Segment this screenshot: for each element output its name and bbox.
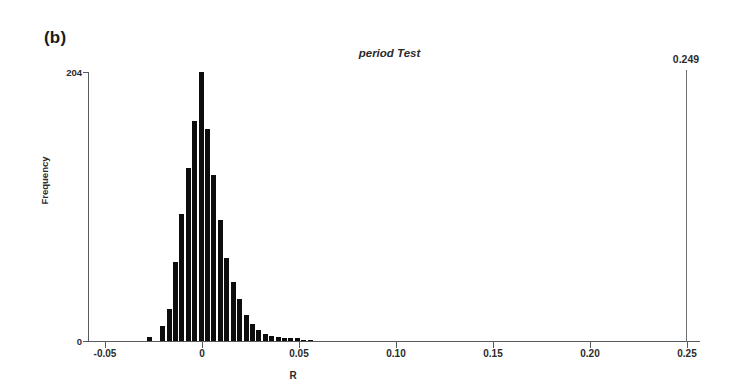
histogram-bar xyxy=(167,309,172,341)
x-tick-label: 0.20 xyxy=(580,348,599,359)
histogram-bar xyxy=(231,282,236,341)
histogram-bar xyxy=(192,121,197,341)
x-tick-label: 0.10 xyxy=(386,348,405,359)
histogram-bar xyxy=(218,220,223,341)
histogram-bar xyxy=(205,129,210,341)
figure-canvas: (b) period Test 0.249 Frequency R 0204-0… xyxy=(0,0,739,392)
histogram-bar xyxy=(276,337,281,341)
histogram-bar xyxy=(269,336,274,341)
histogram-bar xyxy=(179,214,184,341)
y-tick-label: 0 xyxy=(44,336,82,347)
histogram-bar xyxy=(301,340,306,341)
histogram-bar xyxy=(173,262,178,341)
histogram-bar xyxy=(211,175,216,341)
observed-value-line xyxy=(686,70,687,342)
histogram-bar xyxy=(199,72,204,341)
histogram-bar xyxy=(288,338,293,341)
y-axis-label: Frequency xyxy=(39,121,50,241)
histogram-bar xyxy=(308,340,313,341)
x-tick-label: 0.15 xyxy=(483,348,502,359)
histogram-bar xyxy=(295,338,300,341)
x-tick-label: 0.25 xyxy=(677,348,696,359)
histogram-bar xyxy=(250,324,255,341)
x-axis-line xyxy=(88,341,700,342)
y-tick-label: 204 xyxy=(44,67,82,78)
panel-label: (b) xyxy=(44,28,66,48)
y-tick xyxy=(83,341,89,342)
histogram-bar xyxy=(147,337,152,341)
histogram-bar xyxy=(256,330,261,341)
x-tick-label: 0 xyxy=(199,348,205,359)
histogram-bar xyxy=(282,338,287,341)
observed-value-label: 0.249 xyxy=(673,53,699,65)
histogram-bar xyxy=(186,168,191,341)
y-axis-line xyxy=(88,72,89,342)
x-tick-label: 0.05 xyxy=(289,348,308,359)
histogram-bar xyxy=(263,334,268,341)
histogram-bar xyxy=(244,315,249,341)
x-tick-label: -0.05 xyxy=(94,348,117,359)
histogram-bar xyxy=(237,299,242,341)
histogram-bar xyxy=(160,326,165,341)
histogram-bar xyxy=(224,258,229,341)
y-tick xyxy=(83,72,89,73)
chart-title: period Test xyxy=(0,47,739,59)
x-axis-label: R xyxy=(289,370,296,381)
